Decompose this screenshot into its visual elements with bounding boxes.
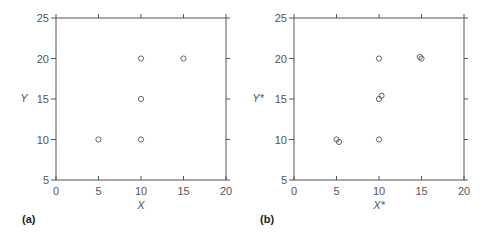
panel-b-x-tick-label: 20 — [458, 185, 470, 197]
panel-b-plot-frame — [294, 18, 464, 180]
panel-b-y-tick-label: 15 — [275, 93, 287, 105]
panel-b-data-point — [376, 56, 381, 61]
panel-b-x-tick-label: 15 — [415, 185, 427, 197]
panel-b-panel-label: (b) — [260, 213, 274, 225]
panel-a-data-point — [138, 96, 143, 101]
panel-b-x-tick-label: 0 — [291, 185, 297, 197]
panel-a-x-tick-label: 10 — [135, 185, 147, 197]
panel-a-data-point — [96, 137, 101, 142]
panel-a-panel-label: (a) — [22, 213, 36, 225]
panel-a-y-tick-label: 15 — [37, 93, 49, 105]
panel-b-y-tick-label: 5 — [281, 174, 287, 186]
panel-a-y-tick-label: 10 — [37, 134, 49, 146]
panel-b-x-tick-label: 5 — [333, 185, 339, 197]
panel-a-y-tick-label: 5 — [43, 174, 49, 186]
panel-b-x-tick-label: 10 — [373, 185, 385, 197]
panel-b-y-axis-label: Y* — [252, 92, 264, 104]
panel-a-y-tick-label: 25 — [37, 12, 49, 24]
figure: 05101520510152025XY(a)05101520510152025X… — [0, 0, 488, 235]
panel-a-plot-frame — [56, 18, 226, 180]
panel-b-y-tick-label: 10 — [275, 134, 287, 146]
panel-a-x-tick-label: 15 — [177, 185, 189, 197]
panel-a-x-tick-label: 20 — [220, 185, 232, 197]
panel-b-x-axis-label: X* — [372, 199, 385, 211]
panel-a-x-tick-label: 0 — [53, 185, 59, 197]
panel-a-y-axis-label: Y — [20, 92, 28, 104]
panel-a-data-point — [181, 56, 186, 61]
panel-a-data-point — [138, 137, 143, 142]
panel-b-y-tick-label: 20 — [275, 53, 287, 65]
panel-b-data-point — [376, 137, 381, 142]
panel-a-y-tick-label: 20 — [37, 53, 49, 65]
panel-a-x-tick-label: 5 — [95, 185, 101, 197]
panel-a-data-point — [138, 56, 143, 61]
panel-b-y-tick-label: 25 — [275, 12, 287, 24]
panel-a-x-axis-label: X — [136, 199, 145, 211]
